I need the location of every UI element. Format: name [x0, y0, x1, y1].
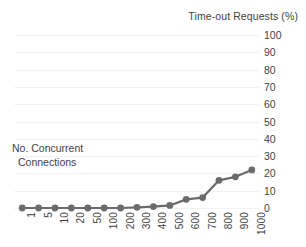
- plot-area: [14, 35, 260, 208]
- y-axis-tick-80: 80: [264, 64, 298, 76]
- y-axis-tick-30: 30: [264, 150, 298, 162]
- x-axis-tick-1000: 1000: [256, 212, 267, 235]
- y-axis-tick-0: 0: [264, 202, 298, 214]
- y-axis-tick-60: 60: [264, 98, 298, 110]
- x-axis-tick-900: 900: [239, 212, 250, 229]
- x-axis-tick-400: 400: [157, 212, 168, 229]
- y-axis-tick-70: 70: [264, 81, 298, 93]
- data-point-600: [183, 196, 190, 203]
- x-axis-tick-200: 200: [125, 212, 136, 229]
- data-point-700: [199, 194, 206, 201]
- x-axis-tick-5: 5: [43, 212, 54, 218]
- x-axis-tick-10: 10: [59, 212, 70, 224]
- data-point-200: [117, 205, 124, 212]
- data-point-20: [68, 205, 75, 212]
- data-point-300: [134, 204, 141, 211]
- data-point-900: [232, 173, 239, 180]
- series-markers: [19, 167, 255, 212]
- x-axis-annotation-line-2: Connections: [12, 156, 83, 170]
- data-point-5: [35, 205, 42, 212]
- x-axis-tick-labels: 151020501002003004005006007008009001000: [14, 212, 260, 247]
- y-axis-tick-10: 10: [264, 185, 298, 197]
- x-axis-tick-800: 800: [223, 212, 234, 229]
- data-point-50: [84, 205, 91, 212]
- data-point-1: [19, 205, 26, 212]
- y-axis-tick-40: 40: [264, 133, 298, 145]
- x-axis-tick-500: 500: [174, 212, 185, 229]
- chart-figure: Time-out Requests (%) 010203040506070809…: [0, 0, 306, 247]
- y-axis-tick-50: 50: [264, 116, 298, 128]
- data-point-500: [166, 202, 173, 209]
- x-axis-tick-100: 100: [108, 212, 119, 229]
- y-axis-tick-90: 90: [264, 46, 298, 58]
- x-axis-annotation-line-1: No. Concurrent: [12, 142, 83, 156]
- x-axis-tick-20: 20: [75, 212, 86, 224]
- data-point-100: [101, 205, 108, 212]
- x-axis-tick-300: 300: [141, 212, 152, 229]
- series-line: [22, 170, 252, 208]
- data-point-1000: [248, 167, 255, 174]
- data-point-800: [216, 177, 223, 184]
- x-axis-tick-1: 1: [26, 212, 37, 218]
- y-axis-tick-100: 100: [264, 29, 298, 41]
- x-axis-tick-600: 600: [190, 212, 201, 229]
- line-series-timeout-requests: [14, 35, 260, 208]
- y-axis-tick-labels: 0102030405060708090100: [264, 0, 304, 247]
- data-point-400: [150, 203, 157, 210]
- x-axis-tick-50: 50: [92, 212, 103, 224]
- x-axis-tick-700: 700: [207, 212, 218, 229]
- data-point-10: [52, 205, 59, 212]
- y-axis-tick-20: 20: [264, 167, 298, 179]
- x-axis-annotation-label: No. Concurrent Connections: [12, 142, 83, 169]
